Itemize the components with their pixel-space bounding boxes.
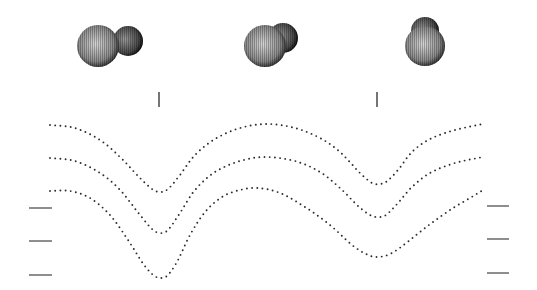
primary-star-icon xyxy=(244,25,286,67)
primary-star-icon xyxy=(77,25,119,67)
phase-3-binary xyxy=(405,17,445,66)
eclipse-markers xyxy=(159,92,377,107)
light-curve-3 xyxy=(49,187,483,279)
phase-2-binary xyxy=(244,23,298,67)
magnitude-ticks xyxy=(29,206,509,275)
light-curves xyxy=(49,123,483,279)
diagram-canvas xyxy=(0,0,537,290)
primary-star-icon xyxy=(405,26,445,66)
light-curve-2 xyxy=(49,156,483,234)
phase-1-binary xyxy=(77,25,143,67)
binary-star-configurations xyxy=(77,17,445,67)
